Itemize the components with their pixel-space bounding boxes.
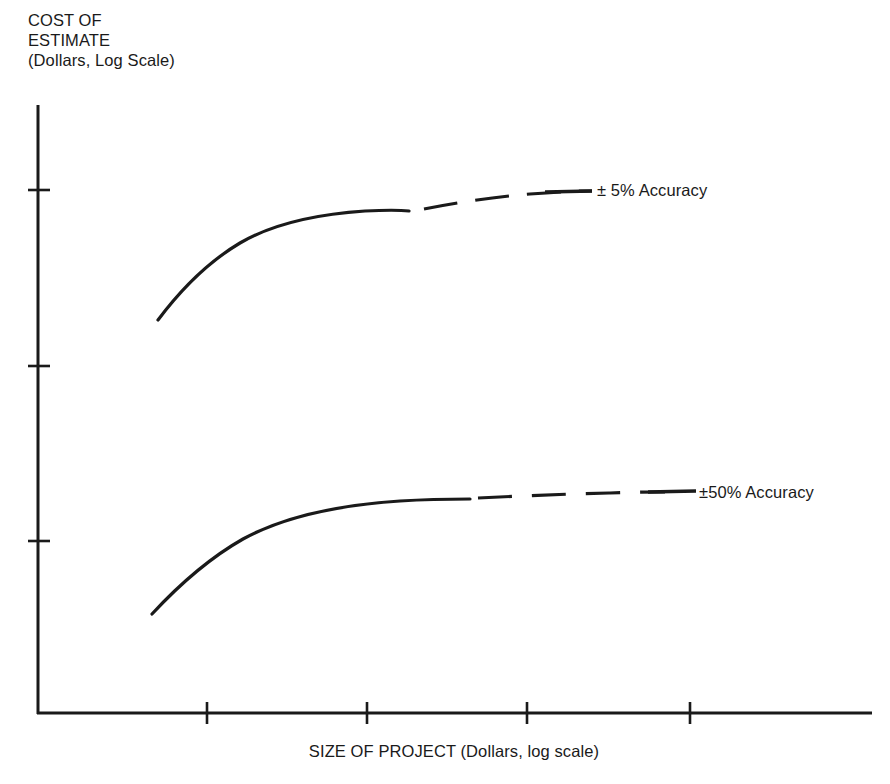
series-upper-dashed-curve	[424, 191, 592, 209]
series-upper-legend-rule	[545, 191, 592, 192]
x-axis-title: SIZE OF PROJECT (Dollars, log scale)	[0, 741, 890, 761]
series-label-upper: ± 5% Accuracy	[597, 180, 707, 200]
series-lower-legend-rule	[648, 491, 696, 492]
plot-area	[0, 0, 890, 784]
series-upper-solid-curve	[158, 210, 409, 320]
x-axis-title-text: SIZE OF PROJECT (Dollars, log scale)	[309, 741, 599, 761]
chart-figure: COST OFESTIMATE(Dollars, Log Scale) ± 5%…	[0, 0, 890, 784]
series-lower-dashed-curve	[478, 492, 665, 498]
series-label-lower: ±50% Accuracy	[699, 482, 814, 502]
series-lower-solid-curve	[152, 499, 470, 614]
